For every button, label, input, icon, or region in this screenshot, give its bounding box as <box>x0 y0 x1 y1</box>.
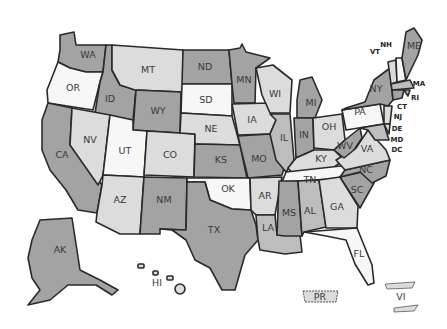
label-MT: MT <box>141 64 155 75</box>
label-PA: PA <box>354 106 366 117</box>
label-VI: VI <box>396 291 405 302</box>
label-AL: AL <box>304 205 316 216</box>
label-VA: VA <box>361 143 374 154</box>
label-NH: NH <box>380 41 392 49</box>
state-ME[interactable] <box>402 28 422 80</box>
state-CT[interactable] <box>392 90 404 100</box>
label-TX: TX <box>207 224 221 235</box>
label-KS: KS <box>215 154 227 165</box>
label-AK: AK <box>54 244 67 255</box>
label-OK: OK <box>221 183 235 194</box>
label-FL: FL <box>354 248 365 259</box>
label-NM: NM <box>156 194 171 205</box>
label-MA: MA <box>413 80 426 88</box>
label-KY: KY <box>315 153 327 164</box>
label-SC: SC <box>351 184 364 195</box>
label-MI: MI <box>306 97 317 108</box>
label-ND: ND <box>198 61 212 72</box>
label-WI: WI <box>269 88 281 99</box>
label-CO: CO <box>163 149 177 160</box>
label-GA: GA <box>330 201 344 212</box>
label-ID: ID <box>105 93 115 104</box>
label-IA: IA <box>247 114 257 125</box>
state-NM[interactable] <box>140 177 187 234</box>
label-DE: DE <box>392 125 403 133</box>
label-SD: SD <box>199 94 212 105</box>
label-OR: OR <box>66 82 80 93</box>
label-LA: LA <box>262 222 275 233</box>
label-ME: ME <box>407 40 421 51</box>
label-RI: RI <box>411 94 419 102</box>
label-NY: NY <box>370 83 383 94</box>
label-NJ: NJ <box>394 113 402 121</box>
state-NY[interactable] <box>342 68 393 110</box>
label-TN: TN <box>303 174 317 185</box>
label-CT: CT <box>397 103 407 111</box>
state-AK[interactable] <box>28 218 118 305</box>
label-OH: OH <box>322 121 337 132</box>
label-UT: UT <box>119 145 132 156</box>
label-MO: MO <box>251 153 267 164</box>
label-AR: AR <box>258 190 271 201</box>
label-HI: HI <box>152 277 162 288</box>
label-MD: MD <box>391 136 404 144</box>
label-IN: IN <box>299 129 309 140</box>
label-PR: PR <box>314 291 327 302</box>
label-NC: NC <box>359 164 373 175</box>
label-DC: DC <box>392 146 403 154</box>
label-IL: IL <box>280 132 289 143</box>
label-WA: WA <box>80 49 96 60</box>
label-CA: CA <box>55 149 69 160</box>
label-AZ: AZ <box>113 194 126 205</box>
label-MS: MS <box>282 207 296 218</box>
label-NE: NE <box>204 123 217 134</box>
label-MN: MN <box>236 74 251 85</box>
label-WV: WV <box>337 140 353 151</box>
label-WY: WY <box>150 105 165 116</box>
label-NV: NV <box>83 134 97 145</box>
us-map: WA OR CA ID NV MT WY UT CO AZ NM ND SD N… <box>0 0 447 329</box>
label-VT: VT <box>370 48 380 56</box>
state-RI[interactable] <box>404 90 410 96</box>
state-AZ[interactable] <box>96 175 144 234</box>
state-NJ[interactable] <box>384 106 392 124</box>
